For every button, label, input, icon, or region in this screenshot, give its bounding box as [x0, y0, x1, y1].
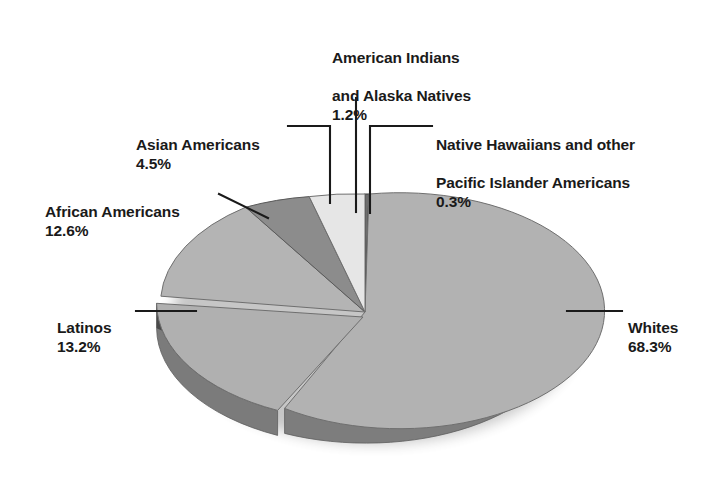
label-african-americans-line1: African Americans	[45, 203, 180, 220]
label-asian-americans-line1: Asian Americans	[136, 136, 260, 153]
leader-line-asian-americans	[288, 126, 330, 203]
label-american-indians-line2: and Alaska Natives	[332, 87, 471, 104]
label-whites-percent: 68.3%	[628, 338, 678, 357]
label-native-hawaiians: Native Hawaiians and other Pacific Islan…	[436, 117, 635, 230]
pie-chart-figure: American Indians and Alaska Natives 1.2%…	[0, 0, 722, 486]
label-asian-americans-percent: 4.5%	[136, 155, 260, 174]
label-latinos-percent: 13.2%	[57, 338, 111, 357]
label-american-indians-line1: American Indians	[332, 49, 460, 66]
label-african-americans: African Americans 12.6%	[45, 184, 180, 260]
label-latinos-line1: Latinos	[57, 319, 111, 336]
label-african-americans-percent: 12.6%	[45, 222, 180, 241]
label-native-hawaiians-line1: Native Hawaiians and other	[436, 136, 635, 153]
label-latinos: Latinos 13.2%	[57, 300, 111, 376]
label-native-hawaiians-percent: 0.3%	[436, 193, 635, 212]
label-whites: Whites 68.3%	[628, 300, 678, 376]
label-asian-americans: Asian Americans 4.5%	[136, 117, 260, 193]
label-whites-line1: Whites	[628, 319, 678, 336]
label-native-hawaiians-line2: Pacific Islander Americans	[436, 174, 630, 191]
